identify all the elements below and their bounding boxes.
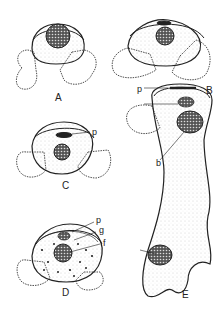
panel-e xyxy=(127,84,212,297)
panel-label-b: B xyxy=(206,86,213,96)
annotation-f-d: f xyxy=(103,239,106,248)
annotation-g-d: g xyxy=(99,226,104,235)
annotation-b-e: b xyxy=(156,159,161,168)
annotation-p-c: p xyxy=(92,128,97,137)
panel-a xyxy=(16,24,96,89)
annotation-p-e: p xyxy=(137,85,142,94)
panel-b xyxy=(112,20,210,80)
figure-drawing xyxy=(0,0,224,317)
panel-label-e: E xyxy=(182,290,189,300)
figure: A B C D E p p g f p b xyxy=(0,0,224,317)
panel-label-a: A xyxy=(55,93,62,103)
panel-label-d: D xyxy=(62,288,69,298)
panel-label-c: C xyxy=(62,181,69,191)
annotation-p-d: p xyxy=(96,216,101,225)
panel-d xyxy=(17,222,103,290)
